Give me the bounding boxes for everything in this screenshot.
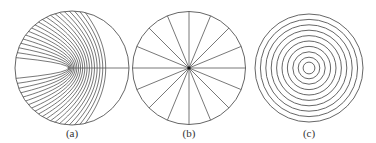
parabolic-field-lines [0, 0, 131, 143]
panel-c: (c) [255, 14, 363, 140]
ring [303, 62, 315, 74]
figure: (a) (b) (c) [0, 0, 376, 143]
ring [266, 25, 352, 111]
panel-b-center-point [187, 66, 190, 69]
field-line [0, 0, 70, 143]
ring [282, 41, 336, 95]
panel-c-label: (c) [303, 127, 316, 140]
ring [271, 30, 347, 106]
panel-b: (b) [133, 12, 246, 141]
field-line [0, 0, 71, 143]
panel-a: (a) [0, 0, 131, 143]
ring [298, 57, 320, 79]
ring [293, 52, 325, 84]
concentric-rings [255, 14, 363, 122]
ring [260, 19, 357, 116]
ring [277, 36, 342, 101]
panel-a-label: (a) [66, 127, 79, 140]
ring [287, 46, 330, 89]
panel-b-label: (b) [183, 127, 196, 140]
